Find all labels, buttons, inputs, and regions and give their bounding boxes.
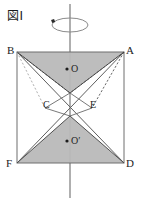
vertex-label-d: D — [126, 158, 134, 169]
point-dot-o-prime — [65, 139, 68, 142]
segment-e-to-lower-apex — [70, 108, 92, 116]
vertex-label-a: A — [126, 45, 134, 56]
figure-container: 図I B A F D C E O O′ — [0, 0, 141, 202]
point-label-o: O — [71, 64, 78, 74]
point-label-c: C — [43, 100, 50, 110]
vertex-label-b: B — [7, 45, 14, 56]
point-label-o-prime: O′ — [71, 136, 80, 146]
figure-drawing — [0, 0, 141, 202]
point-dot-o — [65, 67, 68, 70]
figure-caption: 図I — [7, 10, 24, 23]
vertex-label-f: F — [6, 158, 12, 169]
point-label-e: E — [90, 100, 96, 110]
segment-e-to-upper-apex — [70, 93, 92, 108]
rotation-arrow-marker-icon — [51, 19, 55, 23]
